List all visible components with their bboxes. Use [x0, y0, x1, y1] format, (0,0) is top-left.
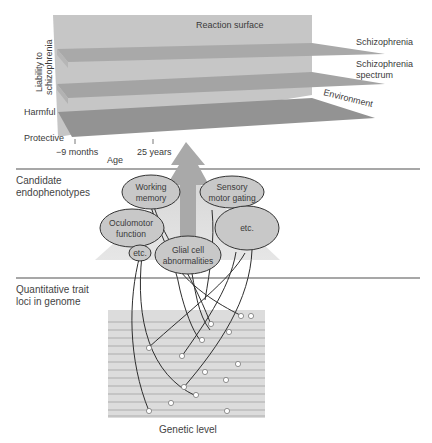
ellipse-working-memory: [122, 175, 180, 209]
locus: [235, 361, 240, 366]
locus: [224, 408, 229, 413]
locus: [238, 313, 243, 318]
working-memory-line2: memory: [136, 193, 167, 203]
etc-small-label: etc.: [133, 248, 147, 258]
locus: [202, 369, 207, 374]
working-memory-line1: Working: [135, 182, 166, 192]
layer-label-schizophrenia: Schizophrenia: [356, 37, 413, 48]
locus: [179, 353, 184, 358]
x-tick-label-25-years: 25 years: [137, 147, 172, 158]
locus: [223, 377, 228, 382]
y-axis-label-line1: Liability to: [34, 52, 44, 92]
layer-label-spectrum-line2: spectrum: [356, 70, 393, 81]
locus: [146, 408, 151, 413]
oculomotor-line2: function: [116, 229, 146, 239]
locus: [146, 345, 151, 350]
locus: [199, 337, 204, 342]
locus: [248, 313, 253, 318]
qtl-section-label-line1: Quantitative trait: [16, 284, 89, 296]
y-protective-label: Protective: [24, 133, 64, 144]
ellipse-sensory-motor-gating: [200, 176, 264, 208]
endophenotypes-section-label-line1: Candidate: [16, 175, 62, 187]
etc-right-label: etc.: [240, 223, 254, 233]
reaction-surface: [53, 15, 385, 144]
reaction-surface-label: Reaction surface: [196, 20, 264, 31]
locus: [193, 392, 198, 397]
layer-label-spectrum-line1: Schizophrenia: [356, 59, 413, 70]
ellipse-glial-cell-abnormalities: [155, 236, 221, 274]
y-axis-label-line2: schizophrenia: [44, 39, 54, 95]
oculomotor-line1: Oculomotor: [109, 218, 153, 228]
sensory-line1: Sensory: [216, 182, 248, 192]
glial-line2: abnormalities: [163, 256, 214, 266]
x-axis-label: Age: [107, 155, 123, 166]
locus: [181, 384, 186, 389]
glial-line1: Glial cell: [172, 245, 204, 255]
locus: [226, 329, 231, 334]
qtl-section-label-line2: loci in genome: [16, 296, 80, 308]
genetic-level-label: Genetic level: [159, 424, 217, 436]
locus: [208, 321, 213, 326]
locus: [168, 400, 173, 405]
y-harmful-label: Harmful: [24, 107, 56, 118]
sensory-line2: motor gating: [208, 193, 256, 203]
x-tick-label-9-months: −9 months: [56, 147, 98, 158]
ellipse-oculomotor-function: [100, 209, 164, 247]
endophenotypes-section-label-line2: endophenotypes: [16, 187, 90, 199]
